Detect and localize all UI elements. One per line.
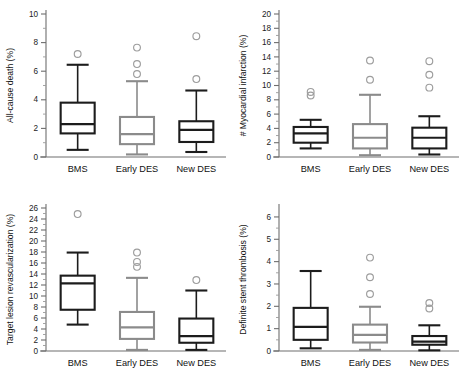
y-tick-label: 6 (266, 110, 271, 119)
box-group-new-des (179, 33, 213, 152)
x-tick-label-early-des: Early DES (116, 358, 158, 368)
panel-definite-stent-thrombosis: 0123456Definite stent thrombosis (%)BMSE… (233, 194, 465, 387)
outlier-point (193, 277, 200, 284)
outlier-point (367, 76, 374, 83)
y-tick-label: 20 (29, 237, 39, 246)
y-tick-label: 18 (262, 24, 272, 33)
y-tick-label: 18 (29, 248, 39, 257)
box-iqr (120, 312, 154, 339)
box-group-early-des (353, 57, 387, 155)
x-tick-label-new-des: New DES (409, 358, 449, 368)
chart-svg-definite-stent-thrombosis: 0123456Definite stent thrombosis (%)BMSE… (233, 194, 465, 387)
box-group-early-des (120, 249, 154, 350)
y-tick-label: 2 (266, 302, 271, 311)
y-tick-label: 4 (33, 325, 38, 334)
outlier-point (74, 51, 81, 58)
outlier-point (367, 57, 374, 64)
chart-svg-all-cause-death: 0246810All-cause death (%)BMSEarly DESNe… (0, 0, 232, 193)
box-iqr (353, 325, 387, 343)
y-tick-label: 2 (266, 138, 271, 147)
outlier-point (134, 44, 141, 51)
y-tick-label: 0 (266, 347, 271, 356)
outlier-point (426, 58, 433, 65)
box-group-new-des (412, 300, 446, 351)
y-tick-label: 16 (262, 38, 272, 47)
box-iqr (120, 117, 154, 144)
outlier-point (367, 254, 374, 261)
y-tick-label: 4 (266, 124, 271, 133)
y-axis-title: All-cause death (%) (5, 48, 15, 123)
y-tick-label: 20 (262, 10, 272, 19)
y-tick-label: 14 (29, 270, 39, 279)
outlier-point (134, 259, 141, 266)
panel-all-cause-death: 0246810All-cause death (%)BMSEarly DESNe… (0, 0, 232, 193)
y-tick-label: 6 (266, 213, 271, 222)
y-tick-label: 6 (33, 67, 38, 76)
y-tick-label: 22 (29, 226, 39, 235)
box-iqr (353, 124, 387, 148)
x-tick-label-early-des: Early DES (349, 164, 391, 174)
x-tick-label-new-des: New DES (409, 164, 449, 174)
y-tick-label: 14 (262, 53, 272, 62)
box-group-new-des (412, 58, 446, 155)
chart-svg-myocardial-infarction: 02468101214161820# Myocardial infarction… (233, 0, 465, 193)
y-tick-label: 0 (33, 153, 38, 162)
outlier-point (193, 76, 200, 83)
box-group-early-des (120, 44, 154, 154)
x-tick-label-bms: BMS (301, 358, 321, 368)
box-group-bms (294, 271, 328, 348)
box-iqr (179, 319, 213, 343)
y-tick-label: 2 (33, 336, 38, 345)
y-tick-label: 4 (33, 95, 38, 104)
outlier-point (193, 33, 200, 40)
box-group-early-des (353, 254, 387, 350)
x-tick-label-early-des: Early DES (349, 358, 391, 368)
x-tick-label-early-des: Early DES (116, 164, 158, 174)
y-tick-label: 0 (33, 347, 38, 356)
y-tick-label: 12 (262, 67, 272, 76)
box-group-bms (61, 211, 95, 325)
panel-myocardial-infarction: 02468101214161820# Myocardial infarction… (233, 0, 465, 193)
y-tick-label: 4 (266, 257, 271, 266)
box-group-new-des (179, 277, 213, 350)
y-tick-label: 5 (266, 235, 271, 244)
outlier-point (134, 61, 141, 68)
y-tick-label: 8 (33, 303, 38, 312)
y-tick-label: 2 (33, 124, 38, 133)
x-tick-label-new-des: New DES (176, 164, 216, 174)
box-group-bms (294, 89, 328, 149)
x-tick-label-new-des: New DES (176, 358, 216, 368)
x-tick-label-bms: BMS (301, 164, 321, 174)
box-iqr (412, 336, 446, 345)
outlier-point (134, 249, 141, 256)
y-tick-label: 0 (266, 153, 271, 162)
boxplot-figure: 0246810All-cause death (%)BMSEarly DESNe… (0, 0, 465, 387)
x-tick-label-bms: BMS (68, 164, 88, 174)
x-tick-label-bms: BMS (68, 358, 88, 368)
y-axis-title: Target lesion revascularization (%) (5, 214, 15, 345)
panel-target-lesion-revascularization: 02468101214161820222426Target lesion rev… (0, 194, 232, 387)
y-tick-label: 8 (33, 38, 38, 47)
y-tick-label: 10 (262, 81, 272, 90)
y-tick-label: 12 (29, 281, 39, 290)
outlier-point (74, 211, 81, 218)
y-axis-title: # Myocardial infarction (%) (238, 35, 248, 137)
y-tick-label: 1 (266, 324, 271, 333)
outlier-point (367, 274, 374, 281)
y-tick-label: 6 (33, 314, 38, 323)
box-iqr (61, 103, 95, 134)
box-group-bms (61, 51, 95, 150)
y-tick-label: 10 (29, 292, 39, 301)
y-tick-label: 16 (29, 259, 39, 268)
box-iqr (294, 127, 328, 143)
y-tick-label: 8 (266, 95, 271, 104)
y-tick-label: 10 (29, 10, 39, 19)
y-tick-label: 26 (29, 204, 39, 213)
y-axis-title: Definite stent thrombosis (%) (238, 224, 248, 334)
y-tick-label: 24 (29, 215, 39, 224)
box-iqr (61, 276, 95, 310)
y-tick-label: 3 (266, 280, 271, 289)
chart-svg-target-lesion-revascularization: 02468101214161820222426Target lesion rev… (0, 194, 232, 387)
outlier-point (134, 71, 141, 78)
box-iqr (294, 308, 328, 340)
